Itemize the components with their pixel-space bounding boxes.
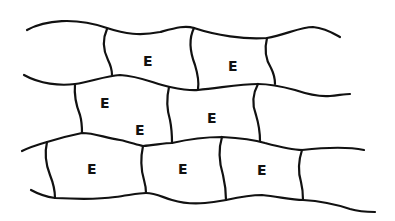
cell-label: E xyxy=(143,53,153,69)
cell-label: E xyxy=(135,122,145,138)
membrane-line-1 xyxy=(27,21,340,38)
membrane-line-2 xyxy=(24,75,350,96)
cell-wall-r1-c xyxy=(266,38,275,84)
cell-wall-r3-c xyxy=(219,137,226,200)
cell-wall-r1-b xyxy=(190,28,198,89)
cell-wall-r1-a xyxy=(104,29,112,75)
cell-wall-r3-d xyxy=(299,150,303,200)
cell-label: E xyxy=(100,95,110,111)
epithelial-cell-diagram: E E E E E E E E xyxy=(0,0,395,221)
cell-wall-r3-a xyxy=(46,142,55,198)
cell-label: E xyxy=(228,58,238,74)
cell-label: E xyxy=(257,162,267,178)
cell-label: E xyxy=(178,161,188,177)
cell-label: E xyxy=(207,110,217,126)
cell-label: E xyxy=(87,161,97,177)
cell-wall-r3-b xyxy=(141,146,146,193)
cell-wall-r2-b xyxy=(167,87,172,143)
membrane-line-3 xyxy=(22,133,364,151)
cell-wall-r2-c xyxy=(253,84,260,141)
cell-wall-r2-a xyxy=(75,84,82,133)
membrane-line-4 xyxy=(31,190,375,212)
